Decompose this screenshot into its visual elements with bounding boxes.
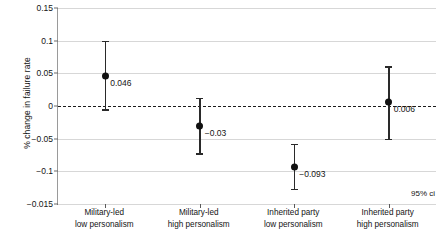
error-bar-cap-lower	[291, 189, 298, 191]
x-axis-category-label: Military-ledlow personalism	[75, 207, 134, 230]
gridline	[58, 204, 436, 205]
x-axis-category-label: Inherited partylow personalism	[264, 207, 323, 230]
x-axis-category-label-line1: Military-led	[75, 207, 134, 219]
gridline	[58, 139, 436, 140]
x-axis-category-label: Inherited partyhigh personalism	[357, 207, 419, 230]
error-bar-cap-upper	[102, 41, 109, 43]
data-point-value-label: 0.006	[394, 104, 415, 114]
x-axis-category-label: Military-ledhigh personalism	[168, 207, 230, 230]
x-axis-category-label-line2: high personalism	[168, 219, 230, 231]
gridline	[58, 171, 436, 172]
estimate-dot	[385, 99, 392, 106]
x-axis-category-label-line1: Inherited party	[357, 207, 419, 219]
estimate-dot	[196, 122, 203, 129]
x-axis-category-label-line2: low personalism	[75, 219, 134, 231]
y-axis-tick-mark	[54, 40, 58, 41]
y-axis-tick-mark	[54, 73, 58, 74]
y-axis-tick-mark	[54, 138, 58, 139]
estimate-dot	[102, 72, 109, 79]
y-axis-tick-mark	[54, 171, 58, 172]
y-axis-tick-mark	[54, 8, 58, 9]
error-bar-cap-lower	[102, 109, 109, 111]
plot-area: 0.150.10.050−0.05−0.1−0.0150.046−0.03−0.…	[57, 8, 436, 205]
y-axis-title: % change in failure rate	[22, 18, 32, 188]
error-bar-cap-upper	[291, 144, 298, 146]
gridline	[58, 8, 436, 9]
x-axis-category-label-line2: low personalism	[264, 219, 323, 231]
gridline	[58, 41, 436, 42]
data-point-value-label: −0.03	[205, 128, 227, 138]
data-point-value-label: 0.046	[110, 78, 131, 88]
y-axis-tick-mark	[54, 204, 58, 205]
error-bar-cap-lower	[385, 139, 392, 141]
error-bar-chart: % change in failure rate 0.150.10.050−0.…	[0, 0, 443, 246]
data-point-value-label: −0.093	[299, 169, 325, 179]
gridline	[58, 73, 436, 74]
zero-reference-line	[58, 106, 436, 107]
x-axis-category-label-line1: Inherited party	[264, 207, 323, 219]
error-bar-cap-upper	[196, 98, 203, 100]
error-bar-cap-lower	[196, 153, 203, 155]
x-axis-category-label-line2: high personalism	[357, 219, 419, 231]
confidence-interval-note: 95% ci	[411, 189, 435, 198]
x-axis-category-label-line1: Military-led	[168, 207, 230, 219]
error-bar-cap-upper	[385, 66, 392, 68]
estimate-dot	[291, 163, 298, 170]
